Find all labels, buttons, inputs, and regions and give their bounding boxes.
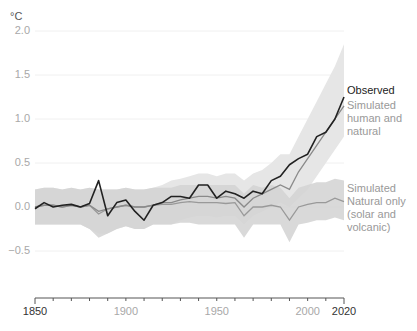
- legend-human-natural-line1: Simulated: [347, 99, 396, 112]
- chart-canvas: [0, 0, 417, 331]
- x-tick-label: 1950: [205, 305, 229, 317]
- legend-natural-line1: Simulated: [347, 182, 396, 195]
- y-tick-label: 0.5: [0, 156, 30, 168]
- y-tick-label: −0.5: [0, 244, 30, 256]
- x-tick-label: 1900: [114, 305, 138, 317]
- legend-natural-line3: (solar and: [347, 208, 396, 221]
- legend-human-natural-line2: human and: [347, 112, 402, 125]
- y-tick-label: 1.0: [0, 112, 30, 124]
- y-tick-label: 0.0: [0, 200, 30, 212]
- y-axis-unit: °C: [10, 10, 22, 22]
- y-tick-label: 1.5: [0, 68, 30, 80]
- x-tick-label: 1850: [23, 305, 47, 317]
- legend-natural-line2: Natural only: [347, 195, 406, 208]
- legend-natural-line4: volcanic): [347, 221, 390, 234]
- x-tick-label: 2020: [332, 305, 356, 317]
- legend-observed: Observed: [347, 84, 395, 97]
- x-tick-label: 2000: [295, 305, 319, 317]
- y-tick-label: 2.0: [0, 24, 30, 36]
- legend-human-natural-line3: natural: [347, 125, 381, 138]
